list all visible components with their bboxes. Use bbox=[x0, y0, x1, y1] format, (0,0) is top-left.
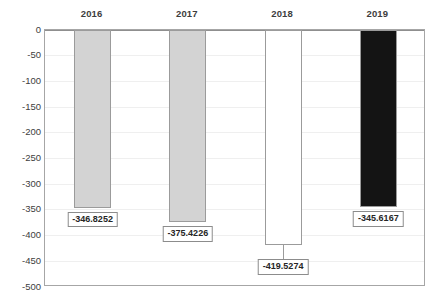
y-axis-tick-label: -100 bbox=[1, 74, 41, 85]
data-label: -375.4226 bbox=[163, 226, 214, 242]
data-label: -345.6167 bbox=[353, 211, 404, 227]
y-axis-tick-label: -200 bbox=[1, 126, 41, 137]
y-axis-tick-label: -450 bbox=[1, 254, 41, 265]
bar[interactable] bbox=[360, 30, 397, 208]
category-label-2018: 2018 bbox=[242, 8, 322, 19]
category-label-2019: 2019 bbox=[337, 8, 417, 19]
y-axis-tick-label: -350 bbox=[1, 203, 41, 214]
y-axis: 0-50-100-150-200-250-300-350-400-450-500 bbox=[0, 29, 41, 286]
data-label: -419.5274 bbox=[258, 259, 309, 275]
data-label: -346.8252 bbox=[67, 212, 118, 228]
data-label-leader-line bbox=[283, 245, 284, 259]
y-axis-tick-label: -300 bbox=[1, 177, 41, 188]
category-label-2016: 2016 bbox=[52, 8, 132, 19]
plot-area: -346.8252-375.4226-419.5274-345.6167 bbox=[44, 29, 425, 286]
y-axis-tick-label: -500 bbox=[1, 280, 41, 291]
y-axis-tick-label: 0 bbox=[1, 23, 41, 34]
bar[interactable] bbox=[265, 30, 302, 246]
y-axis-tick-label: -50 bbox=[1, 49, 41, 60]
y-axis-tick-label: -250 bbox=[1, 152, 41, 163]
category-label-2017: 2017 bbox=[147, 8, 227, 19]
gridline bbox=[45, 235, 424, 236]
bar-chart: 2016 2017 2018 2019 0-50-100-150-200-250… bbox=[0, 0, 441, 303]
y-axis-tick-label: -150 bbox=[1, 100, 41, 111]
bar[interactable] bbox=[74, 30, 111, 208]
bar[interactable] bbox=[169, 30, 206, 223]
y-axis-tick-label: -400 bbox=[1, 229, 41, 240]
gridline bbox=[45, 261, 424, 262]
